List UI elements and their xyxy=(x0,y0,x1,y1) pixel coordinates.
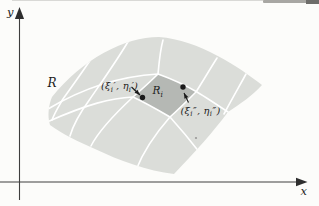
x-axis-label: x xyxy=(301,186,308,198)
sample-point-dot xyxy=(140,95,145,100)
y-axis-label: y xyxy=(7,7,14,19)
y-axis-arrowhead xyxy=(15,7,24,19)
region-diagram-svg xyxy=(0,0,319,206)
top-corner-mark xyxy=(306,0,319,4)
figure-canvas: y x R Ri (ξi′, ηi′) (ξi″, ηi″) xyxy=(0,0,319,206)
point1-label: (ξi′, ηi′) xyxy=(101,81,138,94)
print-speck xyxy=(195,137,197,139)
subregion-label-sub: i xyxy=(160,90,162,99)
sample-point-dot xyxy=(180,84,185,89)
subregion-label: Ri xyxy=(153,85,163,99)
point2-label: (ξi″, ηi″) xyxy=(181,106,221,119)
region-label: R xyxy=(48,77,57,89)
